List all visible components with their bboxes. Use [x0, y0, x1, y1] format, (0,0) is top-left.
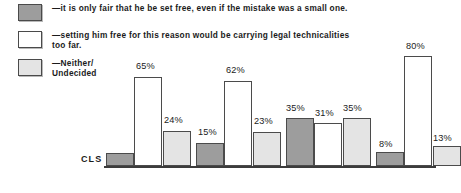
bar-label-g4-s2: 80%	[406, 41, 425, 51]
axis-baseline	[104, 166, 436, 168]
bar-g4-s1	[376, 152, 404, 166]
bar-label-g4-s3: 13%	[433, 133, 452, 143]
bar-g2-s1	[196, 143, 224, 166]
bar-g3-s3	[343, 118, 371, 166]
bar-g2-s2	[224, 81, 252, 166]
bar-label-g3-s2: 31%	[315, 108, 334, 118]
bar-label-g3-s3: 35%	[343, 103, 362, 113]
bar-g1-s1	[106, 153, 134, 166]
bar-label-g4-s1: 8%	[379, 139, 393, 149]
bar-label-g1-s2: 65%	[136, 61, 155, 71]
bar-label-g2-s1: 15%	[198, 127, 217, 137]
bar-g3-s2	[314, 123, 342, 166]
bar-label-g1-s3: 24%	[164, 115, 183, 125]
bar-g3-s1	[286, 118, 314, 166]
bar-label-g2-s3: 23%	[254, 116, 273, 126]
bar-g2-s3	[253, 132, 281, 166]
bar-g4-s3	[433, 146, 461, 166]
bar-label-g3-s1: 35%	[286, 103, 305, 113]
bar-g4-s2	[404, 56, 432, 166]
group-label-cls: CLS	[81, 154, 102, 164]
bar-g1-s3	[163, 131, 191, 166]
bar-label-g2-s2: 62%	[226, 65, 245, 75]
bar-g1-s2	[134, 77, 162, 166]
